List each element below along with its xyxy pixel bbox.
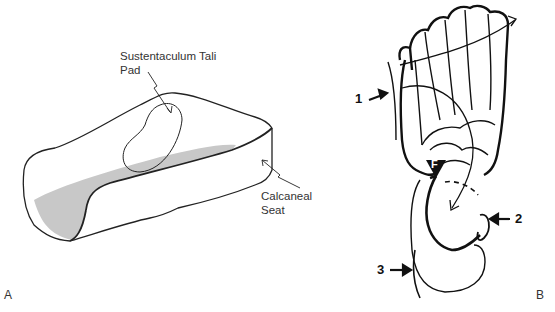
insole-rim-edge [86, 128, 272, 210]
panel-b-label: B [536, 288, 544, 302]
calcaneal-leader-line [262, 160, 300, 188]
marker-1-line [388, 62, 396, 140]
insole-illustration [23, 72, 300, 241]
pad-leader-line [148, 72, 170, 112]
marker-3-label: 3 [377, 262, 384, 277]
marker-2-label: 2 [515, 211, 522, 226]
calcaneus-outline [426, 176, 480, 250]
foot-skeleton-illustration [388, 6, 516, 298]
insole-top-outline [24, 93, 272, 170]
marker-1-label: 1 [355, 91, 362, 106]
diagram-canvas [0, 0, 555, 312]
heel-outline [411, 180, 485, 292]
calcaneal-label: Calcaneal [261, 190, 312, 203]
force-label: F [431, 158, 438, 170]
sustentaculum-pad-label: Pad [120, 64, 140, 77]
shaded-heel-cup [34, 145, 236, 240]
transverse-arch-arrow [400, 20, 515, 65]
panel-a-label: A [4, 288, 12, 302]
calcaneal-seat-label: Seat [261, 204, 285, 217]
sustentaculum-tali-label: Sustentaculum Tali [120, 50, 216, 63]
